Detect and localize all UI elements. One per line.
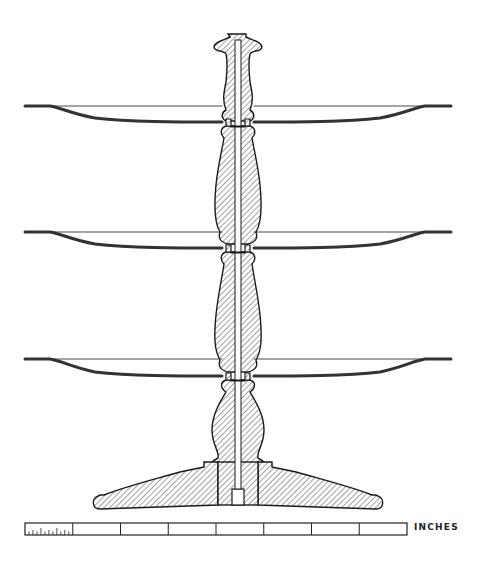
scale-unit-label: INCHES: [414, 522, 459, 532]
scale-bar: [25, 523, 407, 535]
stand-section-drawing: [0, 0, 478, 561]
central-rod: [235, 40, 241, 489]
rod-nut: [232, 489, 244, 505]
